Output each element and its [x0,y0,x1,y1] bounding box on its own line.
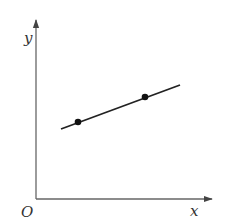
coordinate-diagram: y x O [0,0,226,222]
point-2 [142,94,149,101]
point-1 [75,119,82,126]
origin-label: O [21,203,33,221]
x-axis-label: x [190,202,199,220]
y-axis-label: y [23,29,33,47]
